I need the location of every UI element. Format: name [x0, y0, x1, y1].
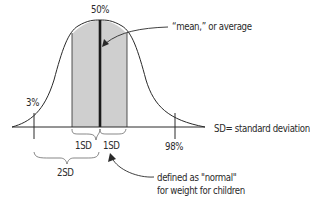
high-percentile-label: 98% [165, 140, 183, 152]
mean-annotation-label: “mean,” or average [172, 20, 252, 32]
two-sd-label: 2SD [57, 166, 74, 178]
sd-left-label: 1SD [75, 139, 92, 151]
brace-2sd [34, 152, 99, 164]
low-percentile-label: 3% [26, 96, 39, 108]
normal-arrowhead-icon [108, 153, 116, 162]
normal-label-line2: for weight for children [157, 184, 245, 196]
normal-arrow [112, 158, 154, 177]
sd-legend-label: SD= standard deviation [214, 122, 310, 134]
peak-percentile-label: 50% [91, 3, 109, 15]
brace-right-1sd [100, 129, 126, 134]
sd-right-label: 1SD [103, 139, 120, 151]
normal-label-line1: defined as "normal" [157, 171, 237, 183]
